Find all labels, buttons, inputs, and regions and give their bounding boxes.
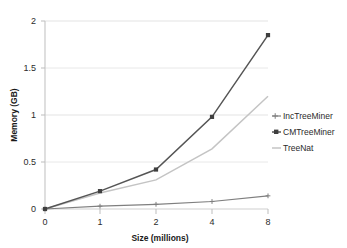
- chart-svg: 2 1.5 1 0.5 0 0 1 2 4 8 Size (millions) …: [0, 0, 347, 248]
- legend-label-inctreeminer: IncTreeMiner: [283, 111, 333, 121]
- data-point-cmtreeminer: [98, 189, 102, 193]
- x-tick-label-8: 8: [265, 217, 270, 227]
- y-tick-label-2: 2: [31, 16, 36, 26]
- x-axis-title: Size (millions): [131, 233, 188, 243]
- x-tick-label-2: 2: [153, 217, 158, 227]
- y-axis-title: Memory (GB): [9, 88, 19, 142]
- x-tick-label-1: 1: [97, 217, 102, 227]
- x-tick-label-0: 0: [42, 217, 47, 227]
- chart-background: [0, 0, 347, 248]
- data-point-cmtreeminer: [266, 33, 270, 37]
- memory-vs-size-line-chart: 2 1.5 1 0.5 0 0 1 2 4 8 Size (millions) …: [0, 0, 347, 248]
- data-point-cmtreeminer: [43, 207, 47, 211]
- data-point-cmtreeminer: [154, 167, 158, 171]
- data-point-cmtreeminer: [210, 115, 214, 119]
- y-tick-label-0: 0: [31, 204, 36, 214]
- square-marker-icon: [274, 130, 278, 134]
- x-tick-label-4: 4: [209, 217, 214, 227]
- y-tick-label-1-5: 1.5: [23, 63, 36, 73]
- legend-label-treenat: TreeNat: [283, 143, 314, 153]
- legend-label-cmtreeminer: CMTreeMiner: [283, 127, 335, 137]
- y-tick-label-0-5: 0.5: [23, 157, 36, 167]
- y-tick-label-1: 1: [31, 110, 36, 120]
